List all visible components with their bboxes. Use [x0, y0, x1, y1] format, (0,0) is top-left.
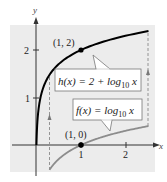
point-1-2: [78, 47, 83, 52]
y-tick-label-2: 2: [24, 45, 29, 56]
y-tick-label-1: 1: [25, 93, 30, 104]
x-tick-label-2: 2: [123, 149, 128, 160]
x-tick-label-1: 1: [79, 149, 84, 160]
point-1-2-label: (1, 2): [53, 37, 75, 49]
x-axis-label: x: [158, 141, 163, 151]
y-axis-label: y: [32, 5, 37, 15]
point-1-0-label: (1, 0): [65, 129, 87, 141]
y-axis-arrow-icon: [34, 17, 39, 24]
point-1-0: [78, 142, 84, 148]
log-shift-chart: x y 1 2 1 2 (1, 2) (1, 0) h(x) = 2 + log…: [0, 0, 167, 182]
